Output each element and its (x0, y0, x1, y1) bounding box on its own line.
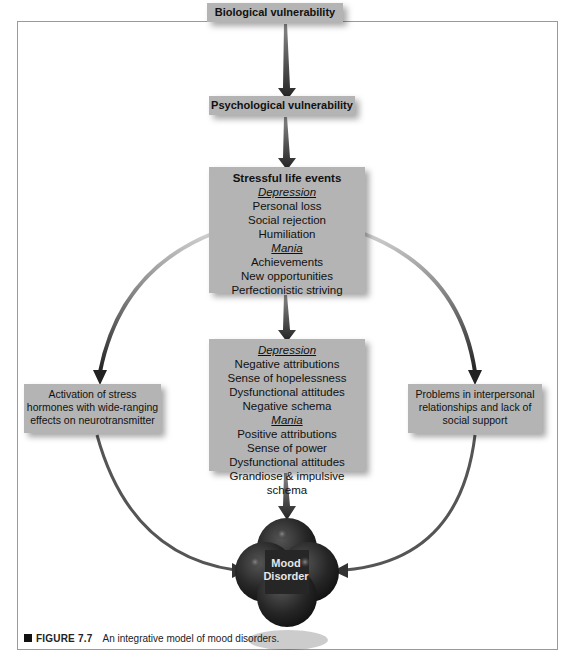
mania-item: Dysfunctional attitudes (209, 455, 365, 469)
caption-text: An integrative model of mood disorders. (102, 633, 279, 644)
mania-item: Grandiose & impulsive schema (209, 469, 365, 497)
node-text-line: Activation of stress (24, 388, 161, 401)
square-bullet-icon (24, 634, 32, 642)
node-title: Stressful life events (209, 171, 365, 185)
depression-item: Humiliation (209, 227, 365, 241)
node-cognitive-factors: Depression Negative attributions Sense o… (209, 339, 365, 471)
mania-item: Sense of power (209, 441, 365, 455)
mood-disorder-blob (235, 518, 339, 650)
arrow-stress-to-interpersonal (362, 233, 482, 385)
node-biological-vulnerability: Biological vulnerability (207, 3, 343, 22)
node-text-line: Problems in interpersonal (408, 388, 542, 401)
arrow-stress-to-cog (278, 295, 296, 342)
depression-item: Sense of hopelessness (209, 371, 365, 385)
mania-item: Perfectionistic striving (209, 283, 365, 297)
depression-item: Personal loss (209, 199, 365, 213)
mania-item: Positive attributions (209, 427, 365, 441)
node-psychological-vulnerability: Psychological vulnerability (209, 96, 355, 115)
mania-heading: Mania (209, 241, 365, 255)
depression-heading: Depression (209, 185, 365, 199)
node-interpersonal-problems: Problems in interpersonal relationships … (408, 384, 542, 433)
node-label: Psychological vulnerability (211, 99, 353, 111)
mood-disorder-label: Mood Disorder (256, 557, 316, 583)
arrow-psy-to-stress (278, 117, 296, 170)
depression-item: Negative schema (209, 399, 365, 413)
mania-item: Achievements (209, 255, 365, 269)
node-stress-hormones: Activation of stress hormones with wide-… (24, 384, 161, 433)
arrow-bio-to-psy (278, 24, 296, 100)
figure-caption: FIGURE 7.7An integrative model of mood d… (24, 633, 279, 644)
node-text-line: relationships and lack of (408, 401, 542, 414)
figure-label: FIGURE 7.7 (36, 633, 92, 644)
depression-item: Social rejection (209, 213, 365, 227)
mood-disorder-line: Disorder (256, 570, 316, 583)
arrow-stress-to-hormones (93, 233, 214, 385)
node-label: Biological vulnerability (215, 6, 335, 18)
node-text-line: hormones with wide-ranging (24, 401, 161, 414)
node-text-line: social support (408, 414, 542, 427)
mood-disorder-line: Mood (256, 557, 316, 570)
node-stressful-life-events: Stressful life events Depression Persona… (209, 167, 365, 293)
depression-item: Negative attributions (209, 357, 365, 371)
mania-item: New opportunities (209, 269, 365, 283)
mania-heading: Mania (209, 413, 365, 427)
node-text-line: effects on neurotransmitter (24, 414, 161, 427)
depression-item: Dysfunctional attitudes (209, 385, 365, 399)
depression-heading: Depression (209, 343, 365, 357)
